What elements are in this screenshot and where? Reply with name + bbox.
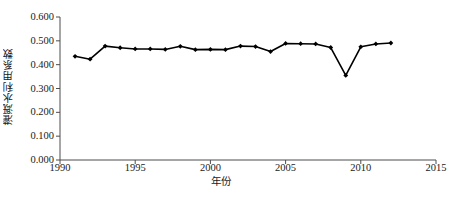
x-axis-tick-label: 2000 <box>187 162 233 173</box>
data-series-markers <box>73 41 394 78</box>
data-point-marker <box>118 45 123 50</box>
data-point-marker <box>388 41 393 46</box>
x-axis-tick-label: 2005 <box>263 162 309 173</box>
data-point-marker <box>373 42 378 47</box>
x-axis-tick-labels: 199019952000200520102015 <box>0 162 442 176</box>
data-point-marker <box>178 44 183 49</box>
data-point-marker <box>193 47 198 52</box>
data-point-marker <box>253 44 258 49</box>
data-point-marker <box>148 47 153 52</box>
figure-caption <box>0 190 442 198</box>
data-point-marker <box>133 47 138 52</box>
axis-lines <box>60 17 436 160</box>
x-axis-tick-label: 2015 <box>413 162 451 173</box>
x-axis-tick-label: 2010 <box>338 162 384 173</box>
data-point-marker <box>298 41 303 46</box>
y-axis-ticks <box>56 17 60 160</box>
data-point-marker <box>208 47 213 52</box>
data-point-marker <box>223 47 228 52</box>
data-point-marker <box>238 44 243 49</box>
x-axis-tick-label: 1990 <box>37 162 83 173</box>
data-point-marker <box>163 47 168 52</box>
x-axis-title: 年份 <box>0 176 442 187</box>
x-axis-tick-label: 1995 <box>112 162 158 173</box>
data-point-marker <box>313 42 318 47</box>
data-point-marker <box>73 54 78 59</box>
